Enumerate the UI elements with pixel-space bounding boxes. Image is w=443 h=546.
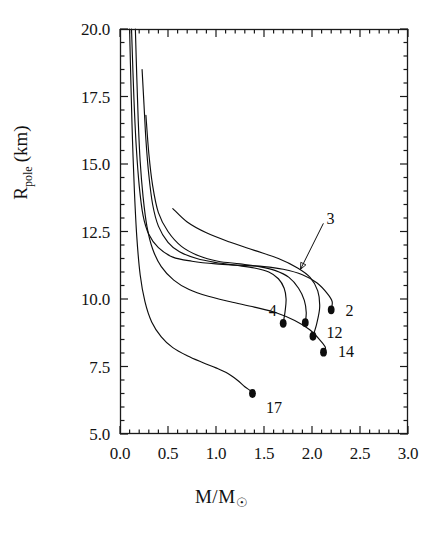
plot-frame (121, 30, 408, 434)
leader-line-group (300, 223, 323, 269)
curve-label-2: 2 (346, 303, 354, 319)
x-tick-label: 3.0 (378, 445, 438, 462)
x-axis-title: M/M☉ (0, 486, 443, 511)
curves-group (130, 29, 333, 394)
endpoint-marker-4b (302, 318, 309, 327)
curve-3 (173, 209, 320, 337)
y-tick-label: 17.5 (24, 89, 110, 106)
endpoint-marker-17 (249, 389, 256, 398)
curve-label-3: 3 (326, 211, 334, 227)
figure-root: Rpole(km) M/M☉ 20.017.515.012.510.07.55.… (0, 0, 443, 546)
curve-label-4: 4 (269, 303, 277, 319)
endpoint-marker-14 (320, 348, 327, 357)
leader-line-3 (300, 223, 323, 269)
y-tick-label: 10.0 (24, 291, 110, 308)
y-axis-title-main: R (10, 187, 31, 200)
curve-label-17: 17 (266, 400, 282, 416)
curve-label-14: 14 (338, 344, 354, 360)
y-tick-label: 5.0 (24, 426, 110, 443)
plot-canvas (0, 0, 443, 546)
endpoint-marker-2 (328, 305, 335, 314)
leader-arrowhead-3 (300, 262, 305, 269)
endpoint-marker-12 (310, 332, 317, 341)
y-tick-label: 12.5 (24, 224, 110, 241)
x-axis-title-main: M/M (195, 486, 236, 507)
solar-symbol-icon: ☉ (236, 495, 248, 510)
curve-4b (146, 115, 306, 322)
y-tick-label: 15.0 (24, 156, 110, 173)
y-tick-label: 20.0 (24, 21, 110, 38)
curve-label-12: 12 (326, 325, 342, 341)
axes-frame-group (120, 29, 408, 434)
y-tick-label: 7.5 (24, 359, 110, 376)
curve-17 (130, 29, 253, 394)
endpoint-marker-4a (280, 319, 287, 328)
curve-4 (142, 70, 286, 324)
curve-14 (135, 29, 325, 352)
